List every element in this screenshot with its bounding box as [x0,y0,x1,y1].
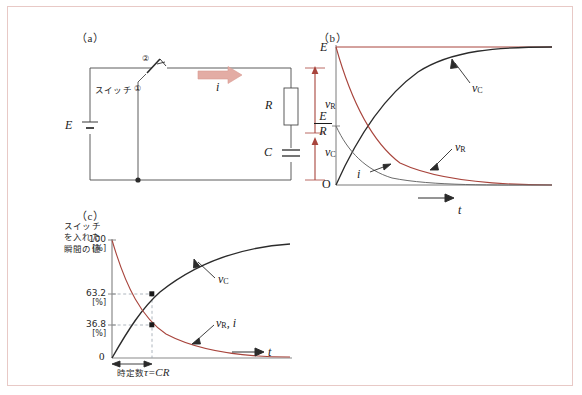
panel-c-tick-100: 100 [%] [76,234,106,254]
panel-b-curve-vc-label: vC [472,81,483,96]
panel-b-axes [336,45,552,185]
switch-position-2-label: ② [142,54,149,63]
switch-text-label: スイッチ [95,85,132,96]
panel-b-curve-i-label: i [357,167,360,182]
junction-node [135,177,140,182]
panel-c-x-axis-label: t [268,345,271,360]
panel-c-axes [112,239,292,358]
panel-b-curve-vr-label: vR [455,140,466,155]
source-label: E [65,118,72,133]
capacitor-symbol [282,150,300,156]
curve-c-vc [112,244,290,358]
panel-b-x-axis-label: t [458,203,461,218]
panel-c-curve-vc-label: vC [218,272,229,287]
capacitor-label: C [264,145,272,160]
switch-position-1-label: ① [134,84,141,93]
marker-632 [149,291,154,296]
battery-symbol [82,122,98,128]
resistor-symbol [284,88,298,125]
resistor-label: R [265,98,272,113]
panel-b-y-top-label: E [320,40,327,55]
curve-b-vc [336,47,552,185]
panel-b-leaders [370,59,470,172]
panel-b-y-mid-label: E R [314,110,332,137]
marker-368 [149,322,154,327]
panel-c-tick-632: 63.2 [%] [74,288,106,308]
current-label: i [216,80,219,95]
curve-c-vri [112,240,290,357]
panel-c-curve-vri-label: vR, i [216,316,236,331]
panel-c-note-line1: スイッチ [64,221,101,232]
panel-c-origin-label: 0 [99,350,105,362]
panel-c-tick-368: 36.8 [%] [74,319,106,339]
switch-blade [147,59,166,73]
panel-b-t-arrow [418,194,454,202]
curve-b-vr [336,47,552,185]
current-block-arrow [198,67,242,84]
panel-c-leaders [192,259,215,344]
panel-c-time-constant: 時定数τ=CR [117,366,169,378]
panel-b-origin-label: O [322,177,331,192]
v-c-label: vC [325,145,336,160]
figure-root: （a） [0,0,582,395]
